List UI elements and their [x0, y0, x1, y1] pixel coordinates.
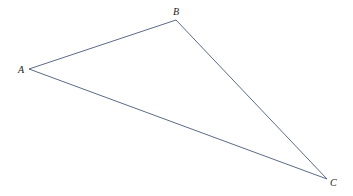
edge-ab	[29, 20, 176, 69]
edge-bc	[176, 20, 327, 179]
triangle-diagram: A B C	[0, 0, 353, 196]
vertex-label-b: B	[173, 6, 179, 17]
vertex-label-a: A	[17, 64, 25, 75]
vertex-label-c: C	[330, 177, 337, 188]
edge-ca	[29, 69, 327, 179]
